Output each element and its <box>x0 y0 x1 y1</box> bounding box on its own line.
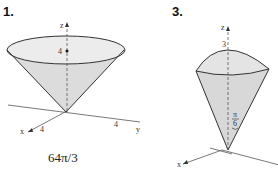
z-axis-label: z <box>221 23 225 32</box>
z-axis-label: z <box>60 21 64 30</box>
y-tick-label: 4 <box>114 120 118 129</box>
x-axis-label: x <box>20 127 24 136</box>
y-axis-label: y <box>136 125 140 134</box>
x-tick-label: 4 <box>40 125 44 134</box>
figure-1-answer: 64π/3 <box>48 150 78 166</box>
angle-numerator: π <box>233 110 237 119</box>
x-axis-label: x <box>177 160 181 169</box>
figures-canvas: z 4 x 4 4 y z 3 π 6 x <box>0 0 278 188</box>
figure-1-cone: z 4 x 4 4 y <box>7 21 140 136</box>
height-label: 4 <box>58 47 62 56</box>
top-label: 3 <box>222 40 226 49</box>
figure-3-cone: z 3 π 6 x <box>177 23 278 169</box>
angle-denominator: 6 <box>233 119 237 128</box>
